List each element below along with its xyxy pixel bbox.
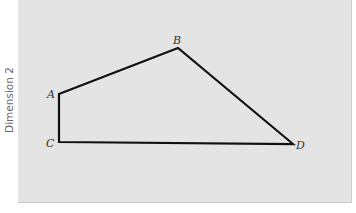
point-label-d: D xyxy=(295,139,305,152)
point-label-b: B xyxy=(172,34,181,47)
quadrilateral-shape xyxy=(59,48,293,144)
point-label-c: C xyxy=(46,137,55,150)
quadrilateral-diagram: A B C D xyxy=(0,0,356,213)
point-label-a: A xyxy=(46,88,55,101)
